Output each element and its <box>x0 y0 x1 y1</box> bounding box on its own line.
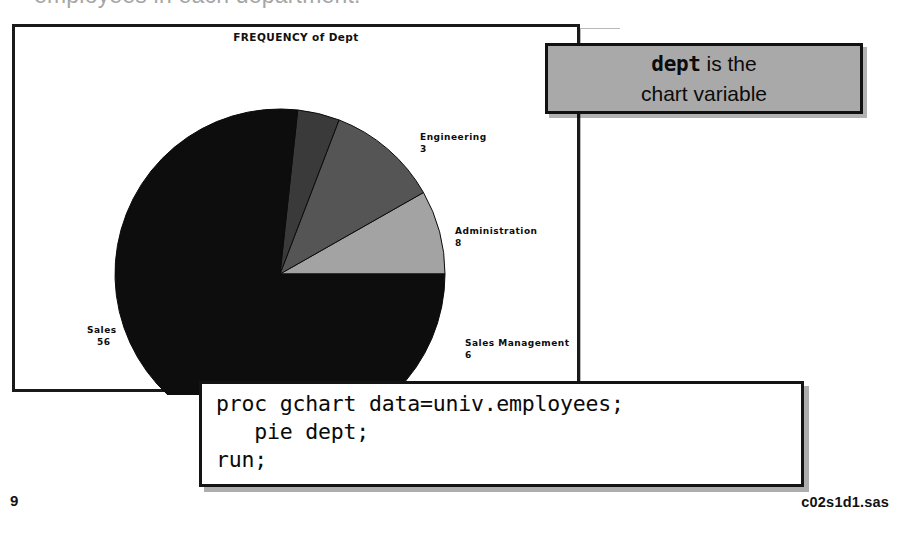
callout-code-word: dept <box>651 52 700 76</box>
pie-label-sales-management-name: Sales Management <box>465 338 569 348</box>
callout-chart-variable: dept is the chart variable <box>545 43 863 114</box>
callout-line-1-rest: is the <box>701 52 757 75</box>
callout-connector-horizontal <box>580 28 620 29</box>
pie-label-administration-value: 8 <box>455 237 538 249</box>
pie-label-sales-management: Sales Management 6 <box>465 337 569 361</box>
callout-line-1: dept is the <box>651 49 756 79</box>
callout-line-2: chart variable <box>641 79 767 108</box>
slide-canvas: employees in each department. FREQUENCY … <box>0 0 901 534</box>
pie-label-engineering-value: 3 <box>420 143 487 155</box>
pie-label-administration: Administration 8 <box>455 225 538 249</box>
pie-slice-group <box>115 109 445 395</box>
pie-label-sales-value: 56 <box>97 336 117 348</box>
page-number: 9 <box>10 492 18 509</box>
pie-label-sales-management-value: 6 <box>465 349 569 361</box>
pie-label-sales-name: Sales <box>87 325 117 335</box>
pie-label-sales: Sales 56 <box>87 324 117 348</box>
code-sample-box: proc gchart data=univ.employees; pie dep… <box>199 381 804 487</box>
pie-label-administration-name: Administration <box>455 226 538 236</box>
sas-code-text: proc gchart data=univ.employees; pie dep… <box>216 390 801 474</box>
pie-label-engineering-name: Engineering <box>420 132 487 142</box>
pie-label-engineering: Engineering 3 <box>420 131 487 155</box>
graph-output-frame: FREQUENCY of Dept Engineering 3 Administ… <box>12 24 580 392</box>
slide-heading-fragment: employees in each department. <box>34 0 494 8</box>
source-file-name: c02s1d1.sas <box>801 494 889 510</box>
